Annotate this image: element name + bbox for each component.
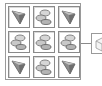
rock-pile-icon <box>35 58 53 76</box>
grid-slot-2-0[interactable] <box>8 56 30 78</box>
rock-pile-icon <box>10 33 28 51</box>
grid-slot-1-0[interactable] <box>8 31 30 53</box>
grid-slot-1-1[interactable] <box>33 31 55 53</box>
grid-slot-0-1[interactable] <box>33 6 55 28</box>
grid-slot-2-1[interactable] <box>33 56 55 78</box>
grid-slot-1-2[interactable] <box>58 31 80 53</box>
rock-pile-icon <box>35 33 53 51</box>
stone-wedge-icon <box>60 8 78 26</box>
rock-pile-icon <box>60 33 78 51</box>
output-slot[interactable] <box>91 33 102 54</box>
rock-pile-icon <box>35 8 53 26</box>
stone-wedge-icon <box>10 58 28 76</box>
connector-line <box>81 43 91 44</box>
grid-slot-2-2[interactable] <box>58 56 80 78</box>
block-icon <box>94 36 102 52</box>
grid-slot-0-0[interactable] <box>8 6 30 28</box>
stone-wedge-icon <box>10 8 28 26</box>
stone-wedge-icon <box>60 58 78 76</box>
grid-slot-0-2[interactable] <box>58 6 80 28</box>
